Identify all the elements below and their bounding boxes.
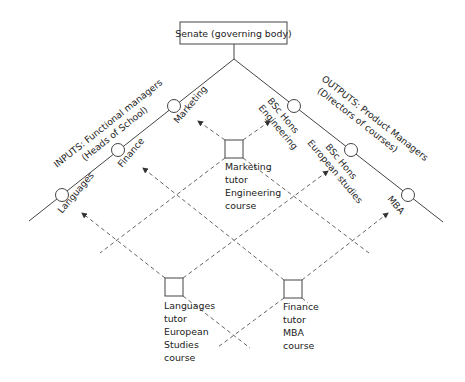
senate-node: Senate (governing body) <box>175 22 291 44</box>
bsc-eng-circle <box>288 100 301 113</box>
finance-tutor-box <box>284 280 302 298</box>
marketing-tutor-box <box>225 140 243 158</box>
finance-tutor-to-mba <box>302 213 388 280</box>
output-node-bsc-eur: BSc Hons European studies <box>305 137 365 205</box>
marketing-tutor-dash-down-left <box>100 158 225 253</box>
bsc-eur-circle <box>345 144 358 157</box>
languages-tutor-line: Languages <box>164 300 215 311</box>
inputs-heading-line1: INPUTS: Functional managers <box>51 76 164 169</box>
input-node-finance: Finance <box>112 135 147 169</box>
input-node-marketing: Marketing <box>168 83 209 125</box>
tutor-node-finance: Finance tutor MBA course <box>283 280 319 351</box>
tutor-node-languages: Languages tutor European Studies course <box>164 278 215 363</box>
languages-tutor-line: Studies <box>164 339 199 350</box>
marketing-tutor-to-bsc-eng <box>243 121 270 140</box>
languages-tutor-line: course <box>164 352 196 363</box>
matrix-structure-diagram: Senate (governing body) INPUTS: Function… <box>0 0 465 382</box>
marketing-tutor-line: Engineering <box>225 187 281 198</box>
languages-tutor-line: tutor <box>164 313 187 324</box>
finance-tutor-line: Finance <box>283 301 319 312</box>
input-node-languages: Languages <box>55 170 96 216</box>
inputs-heading: INPUTS: Functional managers (Heads of Sc… <box>51 76 172 179</box>
tutor-node-marketing: Marketing tutor Engineering course <box>225 140 281 211</box>
output-node-bsc-eng: BSc Hons Engineering <box>256 95 301 151</box>
languages-tutor-to-languages <box>82 213 165 278</box>
finance-tutor-line: MBA <box>283 327 305 338</box>
finance-tutor-line: tutor <box>283 314 306 325</box>
marketing-tutor-to-marketing <box>198 121 225 140</box>
mba-circle <box>402 189 415 202</box>
finance-tutor-line: course <box>283 340 315 351</box>
marketing-tutor-line: Marketing <box>225 161 272 172</box>
finance-tutor-to-finance <box>143 168 284 280</box>
languages-tutor-line: European <box>164 326 209 337</box>
senate-label: Senate (governing body) <box>175 28 291 39</box>
finance-tutor-dash-down-left <box>218 298 284 347</box>
marketing-tutor-line: course <box>225 200 257 211</box>
output-node-mba: MBA <box>385 189 414 217</box>
marketing-tutor-line: tutor <box>225 174 248 185</box>
languages-tutor-box <box>165 278 183 296</box>
